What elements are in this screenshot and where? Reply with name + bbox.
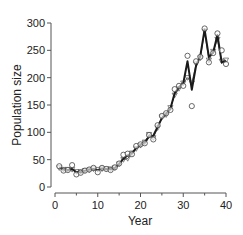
observed-point xyxy=(91,165,96,170)
thick-model-line xyxy=(59,30,226,173)
observed-point xyxy=(202,26,207,31)
observed-point xyxy=(70,163,75,168)
x-tick-label: 0 xyxy=(52,199,58,211)
y-tick-label: 200 xyxy=(27,72,45,84)
observed-point xyxy=(112,165,117,170)
y-tick-label: 300 xyxy=(27,17,45,29)
observed-point xyxy=(95,170,100,175)
population-chart: 050100150200250300010203040 Population s… xyxy=(0,0,243,235)
observed-point xyxy=(219,48,224,53)
observed-point xyxy=(129,152,134,157)
plot-area xyxy=(57,26,229,177)
observed-point xyxy=(168,107,173,112)
observed-point xyxy=(117,161,122,166)
observed-point xyxy=(206,60,211,65)
observed-point xyxy=(142,141,147,146)
y-axis-label: Population size xyxy=(10,64,24,146)
observed-point xyxy=(211,50,216,55)
x-tick-label: 10 xyxy=(92,199,104,211)
observed-point xyxy=(146,132,151,137)
x-tick-label: 20 xyxy=(134,199,146,211)
observed-point xyxy=(215,31,220,36)
observed-point xyxy=(155,123,160,128)
observed-point xyxy=(198,54,203,59)
observed-point xyxy=(181,83,186,88)
y-tick-label: 100 xyxy=(27,126,45,138)
x-axis-label: Year xyxy=(128,214,152,228)
y-tick-label: 0 xyxy=(39,181,45,193)
observed-point xyxy=(193,59,198,64)
x-tick-label: 30 xyxy=(177,199,189,211)
y-tick-label: 250 xyxy=(27,44,45,56)
observed-point xyxy=(65,167,70,172)
x-tick-label: 40 xyxy=(220,199,232,211)
observed-point xyxy=(223,61,228,66)
observed-point xyxy=(185,53,190,58)
y-tick-label: 150 xyxy=(27,99,45,111)
y-tick-label: 50 xyxy=(33,154,45,166)
observed-point xyxy=(57,164,62,169)
observed-point xyxy=(189,103,194,108)
observed-point xyxy=(151,137,156,142)
